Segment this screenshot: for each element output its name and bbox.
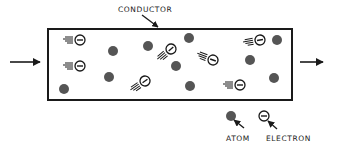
conductor-label: CONDUCTOR [118,5,172,14]
legend: ATOM ELECTRON [226,111,311,143]
atom-icon [185,81,195,91]
legend-electron-icon [259,111,269,121]
legend-electron-pointer [268,121,277,129]
electrons-group [63,34,266,95]
legend-atom-pointer [234,120,244,128]
legend-atom-label: ATOM [226,134,250,143]
conductor-diagram: CONDUCTOR ATOM ELECTRON [0,0,339,151]
atom-icon [272,35,282,45]
legend-atom-icon [226,111,236,121]
atom-icon [245,55,255,65]
atom-icon [104,72,114,82]
atom-icon [269,73,279,83]
atom-icon [184,33,194,43]
electron-icon [128,74,152,95]
atom-icon [171,61,181,71]
atom-icon [143,41,153,51]
electron-icon [155,42,178,64]
electron-icon [63,61,85,71]
conductor-pointer-arrow [142,15,158,27]
electron-icon [63,35,85,45]
electron-icon [195,49,219,66]
atom-icon [59,84,69,94]
atom-icon [108,46,118,56]
legend-electron-label: ELECTRON [266,134,311,143]
electron-icon [223,80,245,90]
atoms-group [59,33,282,94]
electron-icon [242,34,265,48]
